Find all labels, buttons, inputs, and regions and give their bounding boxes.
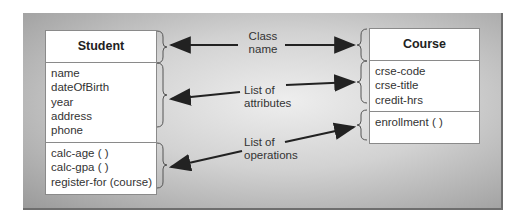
arrow-icon (171, 45, 354, 167)
connector-layer (0, 0, 523, 222)
